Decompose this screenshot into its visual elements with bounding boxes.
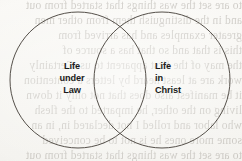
venn-label-left-line: Life bbox=[54, 60, 90, 72]
venn-label-right-line: in bbox=[155, 72, 199, 84]
venn-label-left-line: under bbox=[54, 72, 90, 84]
venn-diagram bbox=[0, 0, 242, 161]
venn-label-right-line: Life bbox=[155, 60, 199, 72]
venn-label-left: Life under Law bbox=[54, 60, 90, 97]
venn-label-left-line: Law bbox=[54, 84, 90, 96]
venn-label-right: Life in Christ bbox=[155, 60, 199, 97]
scanned-page: to are set the was things that started f… bbox=[0, 0, 242, 161]
venn-label-right-line: Christ bbox=[155, 84, 199, 96]
